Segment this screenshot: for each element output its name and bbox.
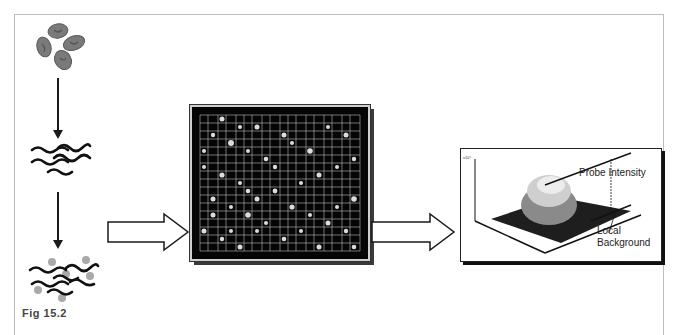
figure-caption: Fig 15.2: [22, 307, 67, 319]
background-label: Background: [597, 237, 650, 248]
intensity-surface-plot: x10⁴ Probe Intensity Local Background: [460, 148, 662, 262]
microarray-grid: [192, 107, 368, 259]
cells-icon: [30, 20, 100, 75]
down-arrow-icon: [50, 78, 66, 140]
probe-intensity-label: Probe Intensity: [579, 167, 646, 178]
svg-text:x10⁴: x10⁴: [463, 155, 471, 160]
down-arrow-icon: [50, 192, 66, 250]
right-arrow-icon: [106, 212, 190, 252]
local-label: Local: [597, 225, 621, 236]
right-arrow-icon: [370, 212, 456, 252]
microarray-image: [190, 105, 370, 261]
nucleic-acid-strands-icon: [28, 142, 108, 182]
labeled-strands-icon: [26, 254, 106, 304]
